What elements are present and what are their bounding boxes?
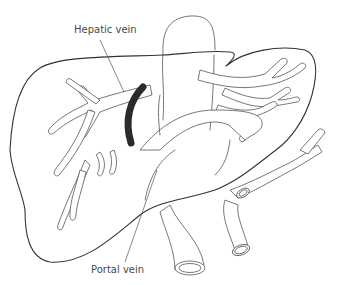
liver-diagram: Hepatic vein Portal vein bbox=[0, 0, 340, 285]
lobe-line-2 bbox=[215, 140, 230, 175]
right-lobe-branch-mid bbox=[222, 87, 300, 106]
hepatic-vein-branch-mid bbox=[96, 152, 104, 176]
portal-vein-label: Portal vein bbox=[91, 265, 144, 275]
hepatic-vein-label: Hepatic vein bbox=[74, 25, 137, 35]
hepatic-vein-branch-upper-left bbox=[66, 79, 100, 104]
central-vessel-line bbox=[159, 95, 161, 135]
portal-vein-leader bbox=[125, 170, 157, 262]
descending-vessel bbox=[224, 200, 248, 250]
ivc-lower-end-inner bbox=[179, 264, 201, 273]
ivc-left-wall bbox=[162, 55, 163, 120]
hepatic-vein-leader bbox=[100, 40, 124, 92]
ivc-lower bbox=[160, 205, 204, 270]
hepatic-vein-branch-mid2 bbox=[110, 150, 117, 174]
liver-illustration bbox=[0, 0, 340, 285]
ivc-upper bbox=[163, 16, 215, 55]
